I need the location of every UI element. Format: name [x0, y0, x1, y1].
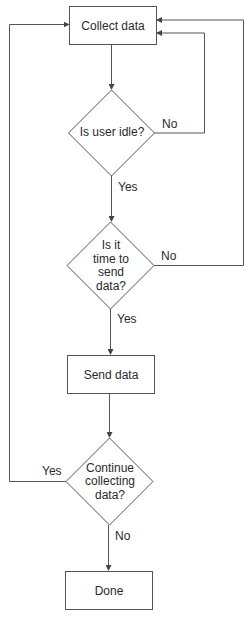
edge-label-idle-no: No — [162, 117, 177, 131]
done-label: Done — [66, 572, 152, 609]
edge-label-idle-yes: Yes — [118, 180, 138, 194]
continue-decision-line-1: Continue — [86, 462, 134, 476]
edge-label-continue-yes: Yes — [42, 464, 62, 478]
continue-decision-label: Continue collecting data? — [74, 460, 146, 504]
time-decision-line-4: data? — [96, 280, 126, 294]
time-decision-line-2: time to — [93, 253, 129, 267]
continue-decision-line-2: collecting — [85, 475, 135, 489]
continue-decision-line-3: data? — [95, 489, 125, 503]
collect-data-label: Collect data — [70, 7, 156, 44]
send-data-label: Send data — [68, 356, 154, 393]
time-decision-label: Is it time to send data? — [80, 238, 142, 294]
edge-label-time-no: No — [161, 249, 176, 263]
edge-time-no — [154, 20, 244, 266]
time-decision-line-1: Is it — [102, 239, 121, 253]
flowchart-canvas — [0, 0, 247, 618]
time-decision-line-3: send — [98, 266, 124, 280]
idle-decision-label: Is user idle? — [72, 124, 152, 142]
edge-label-continue-no: No — [115, 529, 130, 543]
edge-label-time-yes: Yes — [117, 312, 137, 326]
edge-continue-yes — [10, 25, 69, 482]
